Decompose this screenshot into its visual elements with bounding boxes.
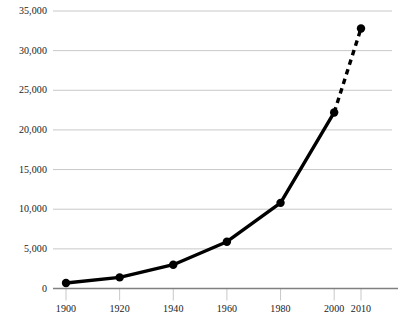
x-axis-tick-label: 1900: [46, 304, 86, 314]
y-axis-tick-label: 30,000: [0, 46, 47, 56]
x-axis-tick-label: 1920: [100, 304, 140, 314]
gridlines-group: [53, 11, 392, 249]
data-point-marker: [62, 279, 70, 287]
x-tick-marks-group: [66, 289, 361, 301]
y-axis-tick-label: 15,000: [0, 165, 47, 175]
y-axis-tick-label: 25,000: [0, 85, 47, 95]
y-axis-tick-label: 0: [0, 284, 47, 294]
x-axis-tick-label: 1940: [153, 304, 193, 314]
data-point-marker: [115, 273, 123, 281]
data-point-marker: [223, 238, 231, 246]
x-axis-tick-label: 1960: [207, 304, 247, 314]
data-point-marker: [357, 24, 365, 32]
data-point-marker: [169, 261, 177, 269]
series-line-dashed: [334, 28, 361, 112]
series-line-solid: [66, 112, 334, 282]
data-point-marker: [276, 199, 284, 207]
line-chart: 05,00010,00015,00020,00025,00030,00035,0…: [0, 0, 406, 328]
x-axis-tick-label: 1980: [261, 304, 301, 314]
data-point-marker: [330, 108, 338, 116]
chart-plot-area: [0, 0, 406, 328]
caption-clipped: [0, 322, 406, 328]
y-axis-tick-label: 5,000: [0, 244, 47, 254]
x-axis-tick-label: 2010: [341, 304, 381, 314]
y-axis-tick-label: 35,000: [0, 6, 47, 16]
y-axis-tick-label: 20,000: [0, 125, 47, 135]
y-axis-tick-label: 10,000: [0, 204, 47, 214]
